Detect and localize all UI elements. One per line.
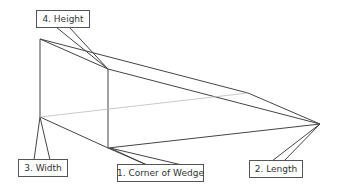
bottom-diag-edge — [40, 117, 320, 124]
top-back-edge — [40, 39, 248, 93]
label-corner: 1. Corner of Wedge — [117, 164, 204, 182]
label-width: 3. Width — [18, 159, 68, 177]
bottom-front-edge — [108, 124, 320, 148]
label-length: 2. Length — [249, 160, 303, 178]
label-height: 4. Height — [36, 10, 90, 28]
height-leader — [56, 27, 108, 69]
corner-leader — [108, 148, 182, 165]
top-front-edge — [108, 69, 320, 124]
hidden-back-edge — [40, 93, 248, 117]
bottom-left-edge — [40, 117, 108, 148]
length-leader — [272, 124, 320, 161]
width-leader — [34, 117, 50, 160]
